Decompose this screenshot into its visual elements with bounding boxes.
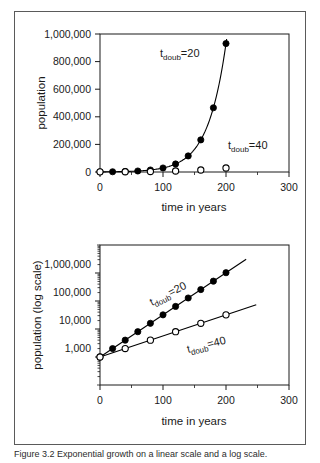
data-point <box>97 169 103 175</box>
data-point <box>147 320 153 326</box>
annotation-tdoub40-linear: tdoub=40 <box>228 139 268 154</box>
annot-value: =40 <box>249 139 268 151</box>
data-point <box>198 320 204 326</box>
svg-text:tdoub=40: tdoub=40 <box>186 334 228 358</box>
x-tick-label: 300 <box>280 394 298 406</box>
y-tick-label: 1,000,000 <box>44 258 91 270</box>
data-point <box>122 345 128 351</box>
figure-caption: Figure 3.2 Exponential growth on a linea… <box>14 449 306 462</box>
svg-text:tdoub=20: tdoub=20 <box>160 47 200 62</box>
annot-subscript: doub <box>231 145 249 154</box>
data-point <box>185 153 191 159</box>
data-point <box>223 165 229 171</box>
data-point <box>122 337 128 343</box>
x-axis-labels-log: 0 100 200 300 <box>97 394 298 406</box>
annotation-tdoub20-linear: tdoub=20 <box>160 47 200 62</box>
annotation-tdoub40-log: tdoub=40 <box>186 334 228 358</box>
y-axis-labels-log: 1,000,000 100,000 10,000 1,000 <box>44 258 91 354</box>
y-axis-labels-linear: 0 200,000 400,000 600,000 800,000 1,000,… <box>44 28 91 178</box>
data-point <box>223 40 229 46</box>
data-point <box>173 303 179 309</box>
annot-value: =20 <box>181 47 200 59</box>
y-tick-label: 0 <box>85 166 91 178</box>
log-scale-chart: 1,000,000 100,000 10,000 1,000 0 100 200… <box>15 229 307 444</box>
y-tick-label: 200,000 <box>53 138 91 150</box>
y-axis-ticks-log <box>95 245 100 385</box>
data-point <box>185 295 191 301</box>
annotation-tdoub20-log: tdoub=20 <box>147 279 189 310</box>
x-axis-labels-linear: 0 100 200 300 <box>97 181 298 193</box>
svg-text:tdoub=20: tdoub=20 <box>147 279 189 310</box>
data-point <box>173 168 179 174</box>
data-point <box>210 278 216 284</box>
x-tick-label: 0 <box>97 394 103 406</box>
data-point <box>110 345 116 351</box>
data-point <box>122 169 128 175</box>
y-tick-label: 1,000 <box>65 342 91 354</box>
plot-frame-log <box>100 245 289 385</box>
x-tick-label: 100 <box>154 181 172 193</box>
x-tick-label: 200 <box>217 181 235 193</box>
x-tick-label: 0 <box>97 181 103 193</box>
x-tick-label: 100 <box>154 394 172 406</box>
x-tick-label: 200 <box>217 394 235 406</box>
y-tick-label: 10,000 <box>59 314 91 326</box>
x-axis-ticks-log <box>100 385 289 390</box>
data-point <box>160 312 166 318</box>
data-point <box>147 168 153 174</box>
y-tick-label: 600,000 <box>53 83 91 95</box>
figure-frame: 0 200,000 400,000 600,000 800,000 1,000,… <box>14 11 306 445</box>
annot-subscript: doub <box>163 53 181 62</box>
data-point <box>223 270 229 276</box>
y-axis-title: population (log scale) <box>31 260 43 369</box>
data-point <box>147 337 153 343</box>
data-point <box>198 167 204 173</box>
linear-scale-chart: 0 200,000 400,000 600,000 800,000 1,000,… <box>15 12 307 229</box>
y-tick-label: 400,000 <box>53 110 91 122</box>
data-point <box>198 286 204 292</box>
data-point <box>173 329 179 335</box>
data-point <box>110 169 116 175</box>
data-point <box>198 137 204 143</box>
data-point <box>135 168 141 174</box>
y-axis-title: population <box>35 76 47 129</box>
data-point <box>210 105 216 111</box>
y-tick-label: 1,000,000 <box>44 28 91 40</box>
y-tick-label: 800,000 <box>53 55 91 67</box>
y-axis-ticks-linear <box>95 34 100 172</box>
data-point <box>173 161 179 167</box>
svg-text:tdoub=40: tdoub=40 <box>228 139 268 154</box>
x-tick-label: 300 <box>280 181 298 193</box>
data-point <box>160 165 166 171</box>
y-tick-label: 100,000 <box>53 286 91 298</box>
x-axis-title: time in years <box>161 415 226 427</box>
data-point <box>135 329 141 335</box>
annot-value: =20 <box>166 279 188 298</box>
data-point <box>97 354 103 360</box>
annot-value: =40 <box>206 334 227 350</box>
x-axis-title: time in years <box>161 201 226 213</box>
data-point <box>223 312 229 318</box>
